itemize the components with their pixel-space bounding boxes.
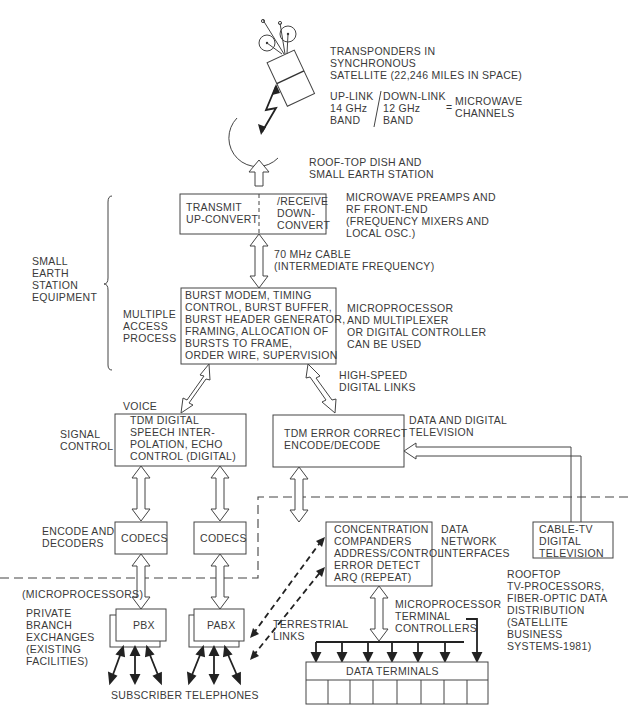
earth-station-equipment-label: SMALL EARTH STATION EQUIPMENT xyxy=(32,255,97,303)
data-television-label: DATA AND DIGITAL TELEVISION xyxy=(409,414,510,438)
equipment-brace xyxy=(104,196,112,370)
terrestrial-links-label: TERRESTRIAL LINKS xyxy=(273,618,351,642)
downlink-label: DOWN-LINK 12 GHz BAND xyxy=(383,90,449,126)
data-network-interfaces-label: DATA NETWORK INTERFACES xyxy=(441,523,510,559)
error-concentration-arrow xyxy=(290,467,308,522)
satellite-earth-station-diagram: TRANSPONDERS IN SYNCHRONOUS SATELLITE (2… xyxy=(0,0,631,723)
cable-arrow xyxy=(250,234,268,288)
satellite-label: TRANSPONDERS IN SYNCHRONOUS SATELLITE (2… xyxy=(330,45,522,81)
data-terminals-label: DATA TERMINALS xyxy=(346,665,439,677)
encode-decoders-label: ENCODE AND DECODERS xyxy=(42,525,118,549)
high-speed-links-label: HIGH-SPEED DIGITAL LINKS xyxy=(339,369,416,393)
satellite-icon xyxy=(259,19,315,106)
codec-pbx-arrow-1 xyxy=(132,554,150,609)
microwave-channels-label: MICROWAVE CHANNELS xyxy=(455,95,526,119)
concentration-terminal-arrow xyxy=(370,586,388,641)
rf-frontend-note: MICROWAVE PREAMPS AND RF FRONT-END (FREQ… xyxy=(346,191,499,239)
private-branch-exchanges-label: PRIVATE BRANCH EXCHANGES (EXISTING FACIL… xyxy=(26,607,98,667)
multiple-access-label: MULTIPLE ACCESS PROCESS xyxy=(123,308,179,344)
pabx-label: PABX xyxy=(207,619,235,631)
codec-box-1-label: CODECS xyxy=(121,532,168,544)
signal-control-label: SIGNAL CONTROL xyxy=(60,428,113,452)
microwave-link-icon xyxy=(258,84,280,135)
microprocessors-label: (MICROPROCESSORS) xyxy=(22,588,143,600)
voice-label: VOICE xyxy=(123,400,157,412)
dish-rf-arrow xyxy=(249,160,269,186)
dish-icon xyxy=(229,118,278,167)
voice-codec-arrow-2 xyxy=(211,466,229,521)
microprocessor-note: MICROPROCESSOR AND MULTIPLEXER OR DIGITA… xyxy=(347,302,490,350)
voice-link-arrow xyxy=(181,364,210,413)
rooftop-tv-note: ROOFTOP TV-PROCESSORS, FIBER-OPTIC DATA … xyxy=(507,568,610,652)
codec-pabx-arrow-2 xyxy=(211,554,229,609)
voice-codec-arrow-1 xyxy=(132,466,150,521)
uplink-label: UP-LINK 14 GHz BAND xyxy=(330,90,377,126)
data-link-arrow xyxy=(306,364,336,413)
codec-box-2-label: CODECS xyxy=(200,532,247,544)
equals-sign: = xyxy=(446,101,452,113)
dish-label: ROOF-TOP DISH AND SMALL EARTH STATION xyxy=(309,156,434,180)
pbx-label: PBX xyxy=(133,619,155,631)
terminal-controllers-label: MICROPROCESSOR TERMINAL CONTROLLERS xyxy=(395,598,505,634)
telephone-arrows xyxy=(109,647,240,683)
subscriber-telephones-label: SUBSCRIBER TELEPHONES xyxy=(111,689,259,701)
cable-label: 70 MHz CABLE (INTERMEDIATE FREQUENCY) xyxy=(274,248,434,272)
